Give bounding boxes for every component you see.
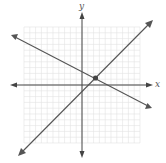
intersection-point [93,75,98,80]
y-axis-down-arrow-icon [80,151,85,158]
axes [10,12,153,158]
decreasing-line-right-arrow-icon [145,103,152,109]
x-axis-right-arrow-icon [146,83,153,88]
x-axis-label: x [155,80,160,89]
coordinate-plane [0,0,166,163]
y-axis-up-arrow-icon [80,12,85,19]
y-axis-label: y [79,2,84,11]
increasing-line [22,24,149,152]
x-axis-left-arrow-icon [10,83,17,88]
decreasing-line-left-arrow-icon [11,34,18,40]
